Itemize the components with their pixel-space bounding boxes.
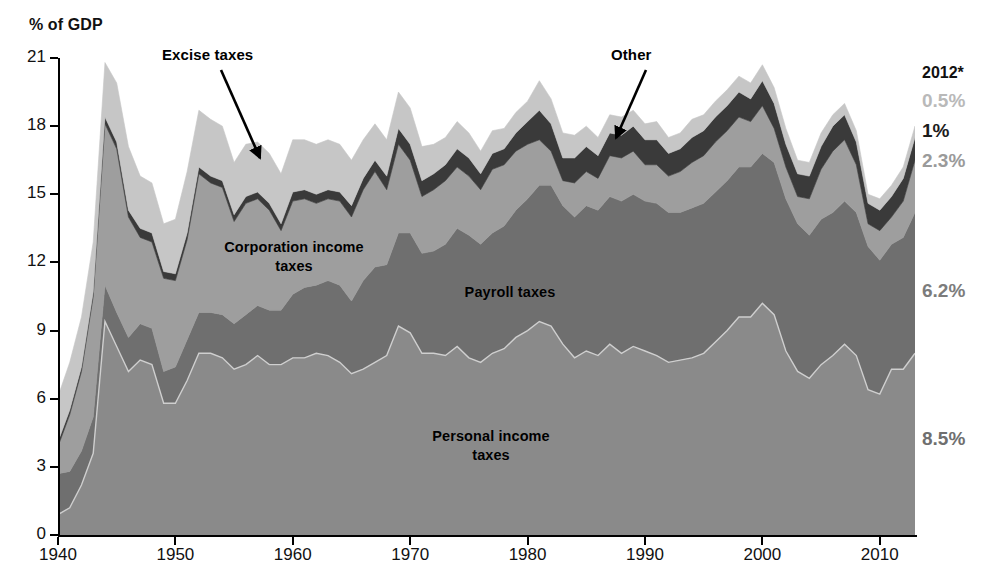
right-value-other: 1% <box>922 120 949 142</box>
series-label-corporation-line2: taxes <box>196 257 392 276</box>
series-label-corporation-line1: Corporation income <box>196 238 392 257</box>
x-tick-1950 <box>174 537 176 545</box>
y-tick-18 <box>50 125 58 127</box>
x-tick-label-2010: 2010 <box>850 545 910 565</box>
y-tick-label-21: 21 <box>0 47 46 67</box>
y-tick-label-18: 18 <box>0 115 46 135</box>
y-tick-label-3: 3 <box>0 456 46 476</box>
y-tick-9 <box>50 330 58 332</box>
chart-figure: % of GDP 036912151821 194019501960197019… <box>0 0 987 581</box>
series-label-personal-line2: taxes <box>396 446 586 465</box>
right-value-payroll: 6.2% <box>922 280 965 302</box>
callout-other: Other <box>611 46 652 63</box>
x-tick-label-1970: 1970 <box>380 545 440 565</box>
series-label-corporation: Corporation income taxes <box>196 238 392 275</box>
x-tick-label-1950: 1950 <box>145 545 205 565</box>
y-tick-3 <box>50 466 58 468</box>
y-tick-label-9: 9 <box>0 320 46 340</box>
x-tick-1990 <box>644 537 646 545</box>
x-tick-label-1990: 1990 <box>615 545 675 565</box>
y-tick-label-15: 15 <box>0 183 46 203</box>
x-tick-2010 <box>879 537 881 545</box>
y-tick-label-0: 0 <box>0 524 46 544</box>
y-tick-15 <box>50 193 58 195</box>
y-tick-label-12: 12 <box>0 251 46 271</box>
right-value-personal-income: 8.5% <box>922 428 965 450</box>
y-tick-0 <box>50 534 58 536</box>
callout-excise-taxes: Excise taxes <box>162 46 253 63</box>
x-tick-1940 <box>57 537 59 545</box>
x-tick-1960 <box>292 537 294 545</box>
x-tick-1980 <box>527 537 529 545</box>
y-tick-6 <box>50 398 58 400</box>
x-tick-1970 <box>409 537 411 545</box>
right-value-corporation: 2.3% <box>922 150 965 172</box>
x-tick-label-1980: 1980 <box>498 545 558 565</box>
series-label-personal-line1: Personal income <box>396 427 586 446</box>
y-tick-21 <box>50 57 58 59</box>
x-axis-line <box>58 535 917 537</box>
y-tick-12 <box>50 261 58 263</box>
x-tick-label-1960: 1960 <box>263 545 323 565</box>
right-value-excise: 0.5% <box>922 90 965 112</box>
y-axis-title: % of GDP <box>29 16 103 34</box>
x-tick-2000 <box>761 537 763 545</box>
x-tick-label-2000: 2000 <box>732 545 792 565</box>
x-tick-label-1940: 1940 <box>28 545 88 565</box>
y-axis-line <box>58 58 60 537</box>
series-label-personal: Personal income taxes <box>396 427 586 464</box>
right-label-year-2012: 2012* <box>922 64 964 82</box>
y-tick-label-6: 6 <box>0 388 46 408</box>
series-label-payroll: Payroll taxes <box>430 283 590 302</box>
